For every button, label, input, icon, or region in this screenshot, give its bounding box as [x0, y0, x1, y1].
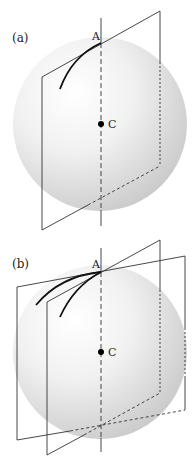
panel-b: (b) A [12, 240, 187, 455]
point-c-label: C [108, 118, 116, 131]
panel-a: (a) A C [12, 11, 187, 230]
diagram-canvas: (a) A C (b) [0, 0, 194, 457]
point-c-label: C [108, 346, 116, 359]
panel-b-label: (b) [12, 257, 29, 271]
panel-a-label: (a) [12, 31, 29, 45]
center-point [98, 349, 104, 355]
center-point [98, 121, 104, 127]
point-a-label: A [91, 30, 101, 43]
point-a-label: A [91, 258, 101, 271]
